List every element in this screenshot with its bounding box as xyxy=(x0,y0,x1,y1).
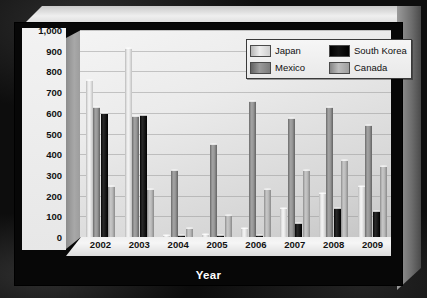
legend-item-south-korea[interactable]: South Korea xyxy=(329,45,408,57)
bar-south-korea-2002[interactable] xyxy=(101,113,108,237)
y-axis-tick-label: 1,000 xyxy=(38,25,62,36)
bar-japan-2008[interactable] xyxy=(319,193,326,237)
bar-group xyxy=(86,30,116,237)
bar-japan-2003[interactable] xyxy=(125,48,132,237)
bar-south-korea-2008[interactable] xyxy=(334,208,341,237)
y-axis-tick-label: 500 xyxy=(46,128,62,139)
chart-face: Volume (million lbs. carcass weight) Yea… xyxy=(14,22,403,286)
x-axis-tick-label: 2008 xyxy=(323,239,344,250)
chart-3d-block: Volume (million lbs. carcass weight) Yea… xyxy=(6,6,421,290)
bar-south-korea-2005[interactable] xyxy=(217,235,224,237)
x-axis-tick-label: 2002 xyxy=(90,239,111,250)
bar-canada-2003[interactable] xyxy=(147,189,154,237)
y-axis-tick-label: 700 xyxy=(46,87,62,98)
legend-swatch-icon xyxy=(250,62,271,74)
x-axis-title: Year xyxy=(14,269,403,281)
legend-swatch-icon xyxy=(329,62,350,74)
bar-group xyxy=(163,30,193,237)
bar-mexico-2007[interactable] xyxy=(288,118,295,237)
x-axis-tick-label: 2003 xyxy=(129,239,150,250)
bar-mexico-2004[interactable] xyxy=(171,170,178,237)
bar-japan-2007[interactable] xyxy=(280,208,287,237)
bar-south-korea-2007[interactable] xyxy=(295,223,302,237)
bar-canada-2009[interactable] xyxy=(380,166,387,237)
legend-label: South Korea xyxy=(354,45,407,56)
y-axis-tick-label: 200 xyxy=(46,190,62,201)
y-axis-tick-label: 0 xyxy=(57,232,62,243)
plot-side-wall xyxy=(66,30,81,258)
bar-mexico-2005[interactable] xyxy=(210,144,217,237)
y-axis-tick-label: 900 xyxy=(46,45,62,56)
bar-canada-2004[interactable] xyxy=(186,228,193,237)
bar-group xyxy=(125,30,155,237)
bar-canada-2002[interactable] xyxy=(108,186,115,237)
legend-label: Mexico xyxy=(275,62,305,73)
x-axis-tick-label: 2006 xyxy=(245,239,266,250)
bar-japan-2006[interactable] xyxy=(241,228,248,237)
bar-mexico-2002[interactable] xyxy=(93,107,100,237)
bar-mexico-2008[interactable] xyxy=(326,107,333,237)
bar-mexico-2006[interactable] xyxy=(249,101,256,237)
y-axis-tick-label: 400 xyxy=(46,149,62,160)
bar-south-korea-2003[interactable] xyxy=(140,115,147,237)
legend-swatch-icon xyxy=(329,45,350,57)
legend-label: Canada xyxy=(354,62,387,73)
y-axis-tick-label: 800 xyxy=(46,66,62,77)
bar-japan-2005[interactable] xyxy=(202,234,209,237)
bar-japan-2002[interactable] xyxy=(86,80,93,237)
bar-canada-2007[interactable] xyxy=(303,170,310,237)
legend-item-mexico[interactable]: Mexico xyxy=(250,62,329,74)
x-axis-tick-label: 2007 xyxy=(284,239,305,250)
y-axis-tick-labels: 01002003004005006007008009001,000 xyxy=(22,28,66,250)
y-axis-tick-label: 600 xyxy=(46,107,62,118)
bar-japan-2009[interactable] xyxy=(358,186,365,237)
bar-group xyxy=(202,30,232,237)
chart-legend: JapanSouth KoreaMexicoCanada xyxy=(246,39,412,79)
bar-canada-2005[interactable] xyxy=(225,215,232,237)
bar-south-korea-2004[interactable] xyxy=(178,235,185,237)
y-axis-tick-label: 300 xyxy=(46,169,62,180)
bar-mexico-2009[interactable] xyxy=(365,125,372,237)
x-axis-tick-label: 2004 xyxy=(168,239,189,250)
y-axis-tick-label: 100 xyxy=(46,211,62,222)
bar-canada-2006[interactable] xyxy=(264,189,271,237)
legend-label: Japan xyxy=(275,45,301,56)
legend-swatch-icon xyxy=(250,45,271,57)
bar-canada-2008[interactable] xyxy=(341,160,348,237)
bar-south-korea-2006[interactable] xyxy=(256,235,263,237)
x-axis-tick-label: 2005 xyxy=(206,239,227,250)
bar-south-korea-2009[interactable] xyxy=(373,211,380,237)
bar-japan-2004[interactable] xyxy=(163,235,170,237)
x-axis-tick-label: 2009 xyxy=(362,239,383,250)
legend-item-japan[interactable]: Japan xyxy=(250,45,329,57)
legend-item-canada[interactable]: Canada xyxy=(329,62,408,74)
x-axis-tick-labels: 20022003200420052006200720082009 xyxy=(80,239,391,257)
bar-mexico-2003[interactable] xyxy=(132,116,139,237)
